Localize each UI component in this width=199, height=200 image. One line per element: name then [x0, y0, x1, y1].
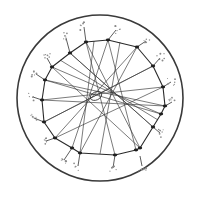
- sprout-line: [47, 58, 52, 67]
- ring-node: [161, 86, 165, 89]
- speck-dot: [31, 114, 32, 115]
- speck-dot: [173, 84, 174, 85]
- speck-dot: [113, 165, 115, 167]
- ring-node: [151, 65, 155, 68]
- sprout-line: [108, 30, 116, 40]
- speck-dot: [79, 29, 81, 31]
- speck-dot: [33, 99, 35, 101]
- speck-dot: [169, 100, 170, 101]
- speck-dot: [65, 39, 66, 40]
- speck-dot: [159, 58, 161, 60]
- speck-dot: [75, 166, 76, 167]
- speck-dot: [115, 169, 116, 170]
- ring-node: [135, 46, 139, 49]
- speck-dot: [170, 99, 171, 100]
- speck-dot: [160, 136, 162, 138]
- ring-node: [70, 147, 74, 150]
- filament-line: [100, 42, 120, 154]
- speck-dot: [32, 96, 33, 97]
- speck-dot: [163, 129, 164, 130]
- speck-dot: [162, 59, 164, 61]
- filament-line: [52, 67, 161, 114]
- speck-dot: [174, 82, 175, 83]
- sprout-line: [140, 156, 142, 166]
- speck-dot: [109, 171, 110, 172]
- speck-dot: [159, 53, 161, 55]
- speck-dot: [167, 83, 169, 85]
- speck-dot: [36, 73, 38, 75]
- speck-dot: [35, 117, 36, 118]
- filament-line: [42, 100, 165, 106]
- ring-node: [106, 39, 110, 42]
- speck-dot: [44, 57, 46, 59]
- speck-dot: [141, 169, 143, 171]
- ring-node: [159, 113, 163, 116]
- ring-node: [163, 105, 167, 108]
- speck-dot: [156, 55, 157, 56]
- sprout-line: [64, 148, 72, 160]
- ring-node: [42, 121, 46, 124]
- speck-dot: [159, 133, 161, 135]
- speck-dot: [33, 70, 34, 71]
- speck-dot: [45, 138, 46, 139]
- speck-dot: [174, 99, 176, 101]
- filament-line: [60, 60, 158, 120]
- speck-dot: [114, 25, 116, 27]
- ring-node: [138, 147, 142, 150]
- speck-dot: [146, 39, 147, 40]
- speck-dot: [80, 25, 81, 26]
- ring-node: [84, 41, 88, 44]
- ring-node: [53, 137, 57, 140]
- speck-dot: [138, 170, 140, 172]
- speck-dot: [73, 162, 75, 164]
- speck-dot: [145, 169, 146, 170]
- ring-node: [40, 99, 44, 102]
- speck-dot: [28, 93, 29, 94]
- speck-dot: [30, 115, 31, 116]
- speck-dot: [66, 32, 68, 34]
- speck-dot: [31, 76, 33, 78]
- speck-dot: [48, 56, 50, 58]
- speck-dot: [145, 167, 147, 169]
- speck-dot: [63, 32, 64, 33]
- cell-diagram: [0, 0, 199, 200]
- speck-dot: [171, 97, 173, 99]
- ring-node: [50, 66, 54, 69]
- sprout-line: [84, 27, 86, 42]
- speck-dot: [149, 39, 150, 40]
- speck-dot: [36, 119, 38, 121]
- speck-dot: [61, 158, 62, 159]
- speck-dot: [119, 29, 120, 30]
- speck-dot: [34, 74, 35, 75]
- speck-dot: [49, 53, 50, 54]
- sprout-line: [78, 153, 80, 166]
- node-sprouts: [33, 27, 172, 168]
- speck-dot: [143, 40, 144, 41]
- speck-dot: [82, 23, 84, 25]
- filament-line: [55, 47, 137, 138]
- speck-dot: [174, 84, 175, 85]
- speck-dot: [65, 163, 66, 164]
- speck-dot: [158, 129, 160, 131]
- speck-dot: [144, 42, 145, 43]
- speck-dot: [78, 164, 79, 165]
- speck-dot: [163, 58, 165, 60]
- speck-dot: [29, 96, 30, 97]
- speck-dot: [45, 54, 46, 55]
- speck-dot: [65, 160, 67, 162]
- sprout-line: [66, 38, 70, 53]
- speck-dot: [61, 159, 62, 160]
- speck-dot: [163, 53, 164, 54]
- speck-dot: [170, 98, 171, 99]
- ring-node: [68, 52, 72, 55]
- speck-dot: [65, 36, 66, 37]
- speck-dot: [31, 74, 33, 76]
- speck-dot: [47, 54, 49, 56]
- speck-dot: [44, 140, 45, 141]
- ring-node: [113, 154, 117, 157]
- speck-dot: [63, 38, 64, 39]
- speck-dot: [78, 170, 79, 171]
- speck-dot: [112, 166, 113, 167]
- speck-dot: [116, 30, 117, 31]
- ring-node: [43, 79, 47, 82]
